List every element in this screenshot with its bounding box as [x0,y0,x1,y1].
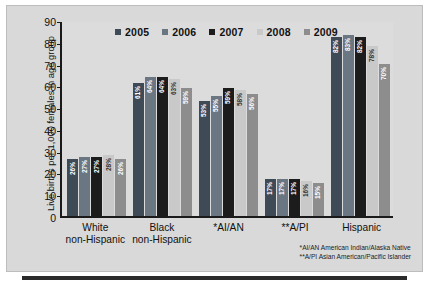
x-axis-label-line: Hispanic [328,222,395,234]
bar-value-label: 64% [159,80,166,93]
bar-value-label: 17% [267,182,274,195]
y-tick-mark [57,153,62,154]
x-axis-label-line: **A/PI [262,222,329,234]
bar[interactable]: 17% [265,179,276,216]
bar[interactable]: 27% [91,157,102,216]
y-tick-mark [57,87,62,88]
bar-value-label: 27% [82,160,89,173]
bar-value-label: 27% [94,160,101,173]
legend-item-2006[interactable]: 2006 [162,26,196,38]
legend-label: 2008 [267,26,291,38]
bar[interactable]: 58% [235,90,246,216]
legend-swatch-icon [304,29,310,35]
legend-swatch-icon [162,29,168,35]
bar-group-3: 17%17%17%16%15% [261,22,327,216]
bar[interactable]: 70% [379,64,390,216]
y-tick-mark [57,174,62,175]
y-tick-label: 50 [32,103,56,115]
bar-group-1: 61%64%64%63%59% [130,22,196,216]
legend-swatch-icon [115,29,121,35]
x-axis-label-line: White [62,222,129,234]
chart-legend: 20052006200720082009 [60,26,393,38]
footnote: *AI/AN American Indian/Alaska Native [300,243,411,252]
bar[interactable]: 82% [355,37,366,216]
bar-value-label: 53% [201,104,208,117]
bar[interactable]: 64% [145,77,156,216]
bar-value-label: 15% [315,186,322,199]
bar-value-label: 82% [357,40,364,53]
bar[interactable]: 27% [79,157,90,216]
x-axis-label-line: non-Hispanic [129,234,196,246]
bar-value-label: 26% [118,162,125,175]
bar[interactable]: 17% [289,179,300,216]
bar[interactable]: 59% [223,88,234,216]
chart-footnotes: *AI/AN American Indian/Alaska Native**A/… [300,243,411,261]
bar[interactable]: 55% [211,96,222,216]
legend-swatch-icon [257,29,263,35]
bar-value-label: 16% [303,184,310,197]
bar[interactable]: 15% [313,183,324,216]
y-tick-mark [57,22,62,23]
x-axis-label-1: Blacknon-Hispanic [129,222,196,246]
y-tick-label: 90 [32,16,56,28]
legend-item-2009[interactable]: 2009 [304,26,338,38]
bar-groups: 26%27%27%28%26%61%64%64%63%59%53%55%59%5… [64,22,393,216]
bar[interactable]: 28% [103,155,114,216]
y-tick-mark [57,196,62,197]
bar-value-label: 78% [369,49,376,62]
bar[interactable]: 26% [115,159,126,216]
y-tick-label: 20 [32,168,56,180]
bar-value-label: 63% [171,82,178,95]
bar[interactable]: 82% [331,37,342,216]
bottom-rule [22,276,407,280]
bar-value-label: 56% [249,97,256,110]
bar[interactable]: 64% [157,77,168,216]
bar[interactable]: 17% [277,179,288,216]
plot-area: Live births per 1,000 females in age gro… [60,22,393,218]
legend-label: 2006 [172,26,196,38]
bar[interactable]: 59% [181,88,192,216]
bar[interactable]: 53% [199,101,210,216]
y-tick-mark [57,131,62,132]
bar-value-label: 58% [237,93,244,106]
x-axis-label-0: Whitenon-Hispanic [62,222,129,246]
bar-value-label: 17% [279,182,286,195]
legend-item-2007[interactable]: 2007 [209,26,243,38]
x-axis-label-2: *AI/AN [195,222,262,246]
bar-value-label: 28% [106,158,113,171]
y-tick-label: 80 [32,38,56,50]
legend-label: 2005 [125,26,149,38]
x-axis-label-line: non-Hispanic [62,234,129,246]
bar-group-2: 53%55%59%58%56% [196,22,262,216]
legend-item-2008[interactable]: 2008 [257,26,291,38]
legend-swatch-icon [209,29,215,35]
bar[interactable]: 26% [67,159,78,216]
bar[interactable]: 78% [367,46,378,216]
bar-value-label: 83% [345,38,352,51]
chart-figure: Live births per 1,000 females in age gro… [0,0,427,290]
y-tick-label: 60 [32,81,56,93]
bar-value-label: 64% [147,80,154,93]
bar-value-label: 59% [183,91,190,104]
bar-value-label: 26% [70,162,77,175]
bar-value-label: 59% [225,91,232,104]
footnote: **A/PI Asian American/Pacific Islander [300,252,411,261]
legend-label: 2007 [219,26,243,38]
bar[interactable]: 83% [343,35,354,216]
y-tick-label: 70 [32,60,56,72]
bar[interactable]: 56% [247,94,258,216]
y-tick-mark [57,66,62,67]
x-axis-label-line: Black [129,222,196,234]
legend-item-2005[interactable]: 2005 [115,26,149,38]
bar[interactable]: 16% [301,181,312,216]
y-tick-label: 0 [32,212,56,224]
bar-value-label: 82% [333,40,340,53]
bar-value-label: 17% [291,182,298,195]
bar[interactable]: 63% [169,79,180,216]
bar-group-4: 82%83%82%78%70% [327,22,393,216]
bar-value-label: 55% [213,99,220,112]
y-tick-label: 40 [32,125,56,137]
bar[interactable]: 61% [133,83,144,216]
bar-value-label: 70% [381,67,388,80]
bar-group-0: 26%27%27%28%26% [64,22,130,216]
